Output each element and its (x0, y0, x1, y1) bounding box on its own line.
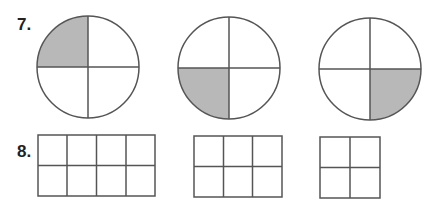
grid-2x2 (320, 137, 380, 198)
fraction-figures (0, 0, 431, 211)
circle-3 (319, 18, 421, 120)
grid-3x2 (194, 136, 282, 197)
grid-4x2 (38, 135, 155, 196)
circle-2 (178, 17, 280, 119)
circle-1 (37, 16, 139, 118)
